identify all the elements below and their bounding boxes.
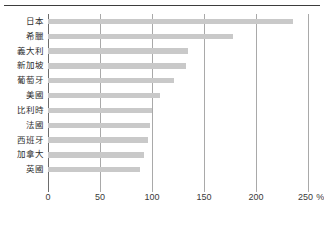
bar-track — [48, 58, 186, 73]
bar — [48, 137, 148, 142]
bar-row: 葡萄牙 — [0, 73, 324, 88]
bar — [48, 78, 174, 83]
chart-title-remnant — [0, 0, 324, 4]
category-label: 新加坡 — [0, 61, 44, 70]
bar-row: 西班牙 — [0, 133, 324, 148]
x-tick-label-150: 150 — [196, 192, 211, 203]
bar — [48, 48, 188, 53]
category-label: 比利時 — [0, 106, 44, 115]
bar-row: 法國 — [0, 118, 324, 133]
bar-track — [48, 29, 233, 44]
bar-track — [48, 118, 150, 133]
bar-track — [48, 103, 152, 118]
category-label: 西班牙 — [0, 136, 44, 145]
x-tick-value: 200 — [248, 192, 263, 202]
bar-row: 美國 — [0, 88, 324, 103]
plot-area: 日本希臘義大利新加坡葡萄牙美國比利時法國西班牙加拿大英國 — [0, 14, 324, 194]
category-label: 英國 — [0, 165, 44, 174]
category-label: 義大利 — [0, 47, 44, 56]
chart-figure: 日本希臘義大利新加坡葡萄牙美國比利時法國西班牙加拿大英國 05010015020… — [0, 0, 324, 225]
category-label: 加拿大 — [0, 150, 44, 159]
bar — [48, 93, 160, 98]
bar-row: 英國 — [0, 162, 324, 177]
bar — [48, 167, 140, 172]
bar — [48, 152, 144, 157]
bar-track — [48, 73, 174, 88]
x-axis-unit: % — [316, 192, 324, 202]
x-tick-value: 150 — [196, 192, 211, 202]
x-tick-label-100: 100 — [144, 192, 159, 203]
x-tick-value: 0 — [45, 192, 50, 202]
x-tick-value: 250 — [298, 192, 313, 202]
category-label: 葡萄牙 — [0, 76, 44, 85]
bar — [48, 123, 150, 128]
x-tick-value: 100 — [144, 192, 159, 202]
bar-row: 希臘 — [0, 29, 324, 44]
bar-row: 日本 — [0, 14, 324, 29]
x-tick-label-0: 0 — [45, 192, 50, 203]
x-tick-label-200: 200 — [248, 192, 263, 203]
category-label: 希臘 — [0, 32, 44, 41]
bar-rows-group: 日本希臘義大利新加坡葡萄牙美國比利時法國西班牙加拿大英國 — [0, 14, 324, 192]
bar-row: 新加坡 — [0, 58, 324, 73]
x-axis: 050100150200250% — [0, 192, 324, 208]
bar-row: 義大利 — [0, 44, 324, 59]
x-tick-value: 50 — [95, 192, 105, 202]
bar — [48, 19, 293, 24]
bar-track — [48, 44, 188, 59]
bar — [48, 108, 152, 113]
bar-row: 比利時 — [0, 103, 324, 118]
category-label: 法國 — [0, 121, 44, 130]
bar-track — [48, 88, 160, 103]
category-label: 美國 — [0, 91, 44, 100]
top-divider-rule — [4, 5, 320, 6]
category-label: 日本 — [0, 17, 44, 26]
bar-track — [48, 133, 148, 148]
bar-track — [48, 162, 140, 177]
bar-track — [48, 147, 144, 162]
bar-track — [48, 14, 293, 29]
bar — [48, 34, 233, 39]
x-tick-label-250: 250% — [298, 192, 324, 203]
x-tick-label-50: 50 — [95, 192, 105, 203]
bar — [48, 63, 186, 68]
bar-row: 加拿大 — [0, 147, 324, 162]
